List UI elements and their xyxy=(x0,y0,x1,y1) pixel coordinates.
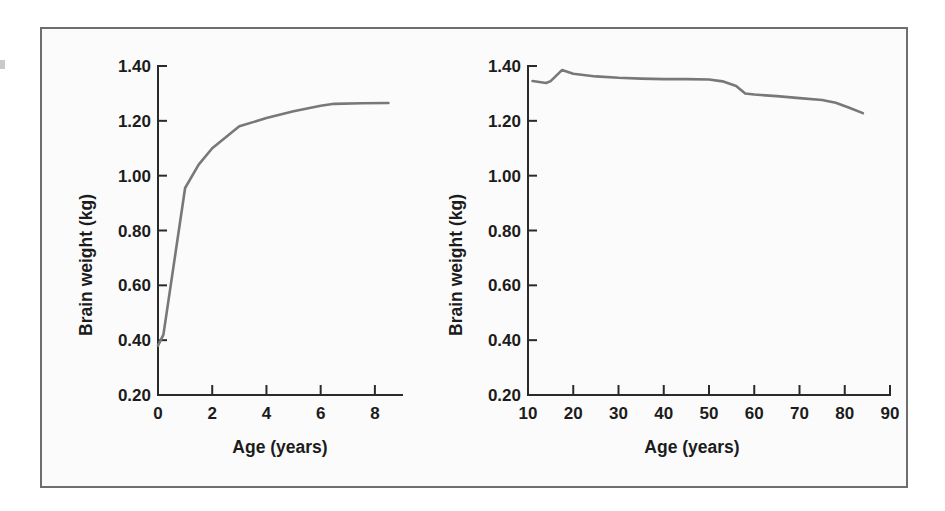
y-tick-label: 1.20 xyxy=(488,112,521,131)
x-tick-group: 02468 xyxy=(153,385,379,423)
y-tick-label: 0.20 xyxy=(118,386,151,405)
figure-frame: Brain weight (kg) 1.401.201.000.800.600.… xyxy=(40,27,908,488)
x-tick-label: 6 xyxy=(316,404,325,423)
scan-edge-artifact xyxy=(0,60,5,69)
x-tick-label: 30 xyxy=(609,404,628,423)
y-tick-label: 0.60 xyxy=(488,276,521,295)
figure-root: Brain weight (kg) 1.401.201.000.800.600.… xyxy=(0,0,945,511)
y-tick-label: 1.20 xyxy=(118,112,151,131)
x-tick-label: 20 xyxy=(564,404,583,423)
y-tick-label: 0.40 xyxy=(118,331,151,350)
x-axis-title: Age (years) xyxy=(644,437,739,457)
y-tick-label: 1.00 xyxy=(488,167,521,186)
y-tick-label: 0.40 xyxy=(488,331,521,350)
x-tick-label: 60 xyxy=(745,404,764,423)
y-axis-title: Brain weight (kg) xyxy=(76,194,96,336)
x-tick-label: 2 xyxy=(207,404,216,423)
childhood-chart-svg: Brain weight (kg) 1.401.201.000.800.600.… xyxy=(42,29,472,490)
x-tick-group: 102030405060708090 xyxy=(519,385,900,423)
y-tick-label: 1.40 xyxy=(118,57,151,76)
x-tick-label: 10 xyxy=(519,404,538,423)
y-tick-label: 0.80 xyxy=(488,222,521,241)
x-tick-label: 40 xyxy=(654,404,673,423)
adulthood-chart-svg: Brain weight (kg) 1.401.201.000.800.600.… xyxy=(442,29,910,490)
x-tick-label: 70 xyxy=(790,404,809,423)
data-series-line xyxy=(158,103,388,346)
axis-lines xyxy=(528,66,890,395)
x-tick-label: 90 xyxy=(881,404,900,423)
data-series-line xyxy=(533,70,863,113)
y-tick-group: 1.401.201.000.800.600.400.20 xyxy=(118,57,167,405)
chart-panel-adulthood: Brain weight (kg) 1.401.201.000.800.600.… xyxy=(442,29,910,490)
x-tick-label: 8 xyxy=(370,404,379,423)
y-tick-label: 0.80 xyxy=(118,222,151,241)
y-tick-label: 1.00 xyxy=(118,167,151,186)
x-tick-label: 4 xyxy=(262,404,272,423)
x-tick-label: 50 xyxy=(700,404,719,423)
chart-panel-childhood: Brain weight (kg) 1.401.201.000.800.600.… xyxy=(42,29,472,490)
x-axis-title: Age (years) xyxy=(232,437,327,457)
x-tick-label: 0 xyxy=(153,404,162,423)
x-tick-label: 80 xyxy=(835,404,854,423)
y-tick-label: 1.40 xyxy=(488,57,521,76)
y-tick-group: 1.401.201.000.800.600.400.20 xyxy=(488,57,537,405)
y-tick-label: 0.20 xyxy=(488,386,521,405)
y-tick-label: 0.60 xyxy=(118,276,151,295)
y-axis-title: Brain weight (kg) xyxy=(446,194,466,336)
